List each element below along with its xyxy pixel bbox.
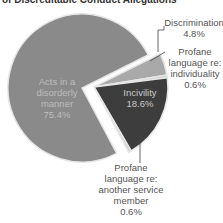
label-incivility: Incivility 18.6% [110,87,170,109]
label-profane-individuality: Profane language re: individuality 0.6% [164,46,223,90]
label-discrimination: Discrimination 4.8% [162,17,223,39]
label-profane-service: Profane language re: another service mem… [96,162,166,217]
label-acts-disorderly: Acts in a disorderly manner 75.4% [22,76,92,120]
